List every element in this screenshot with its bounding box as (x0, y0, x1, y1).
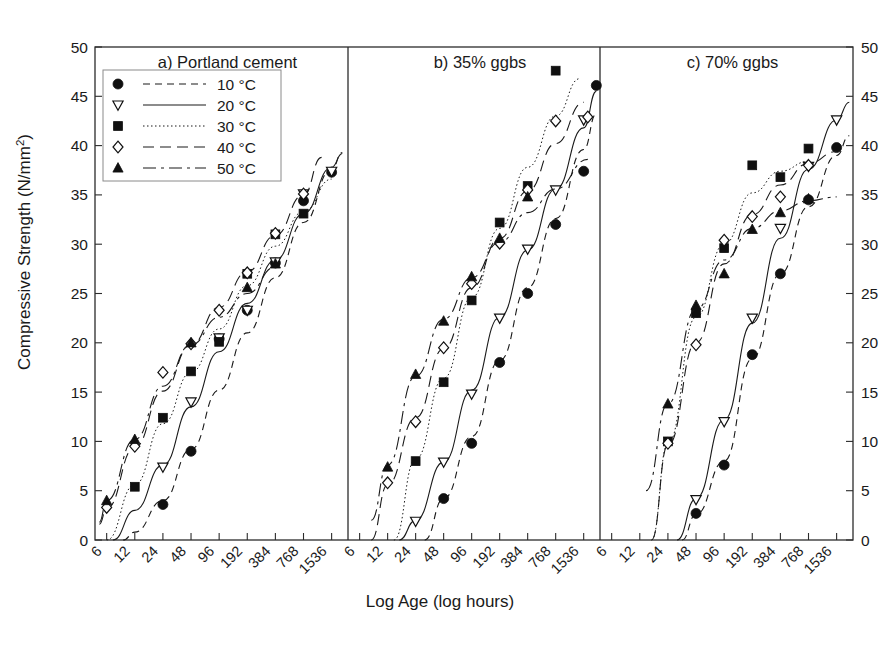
y-tick-label-right: 25 (861, 285, 878, 302)
x-tick-label: 6 (88, 543, 105, 560)
y-tick-label-left: 10 (71, 433, 89, 450)
y-tick-label-right: 0 (861, 532, 870, 549)
data-point (411, 416, 421, 428)
fit-line (652, 152, 837, 541)
x-tick-label: 6 (593, 543, 610, 560)
y-axis-title-tail: ) (15, 134, 34, 140)
data-point (158, 500, 168, 510)
data-point (775, 269, 785, 279)
legend-label: 30 °C (217, 118, 256, 135)
data-point (719, 268, 729, 278)
data-point (439, 458, 449, 467)
fit-line (99, 157, 321, 524)
series-30-c (394, 66, 580, 540)
x-tick-label: 48 (671, 543, 694, 566)
legend: 10 °C20 °C30 °C40 °C50 °C (103, 70, 281, 181)
y-tick-label-right: 30 (861, 236, 879, 253)
data-point (467, 438, 477, 448)
fit-line (107, 179, 332, 540)
data-point (102, 495, 112, 505)
fit-line (371, 102, 584, 540)
panel-title-a: a) Portland cement (158, 53, 298, 71)
series-20-c (399, 91, 596, 540)
legend-label: 20 °C (217, 97, 256, 114)
data-point (439, 342, 449, 354)
series-30-c (652, 144, 813, 540)
panel-b: 6122448961923847681536b) 35% ggbs (341, 53, 602, 577)
data-point (832, 143, 842, 153)
y-axis-title: Compressive Strength (N/mm2) (14, 134, 34, 370)
fit-line (371, 159, 588, 520)
plot-layers: 0055101015152020252530303535404045455050… (71, 39, 879, 577)
data-point (551, 219, 561, 229)
series-40-c (99, 157, 321, 524)
figure-root: Compressive Strength (N/mm2) 00551010151… (0, 0, 879, 645)
data-point (467, 296, 476, 305)
y-tick-label-left: 5 (79, 482, 88, 499)
y-tick-label-right: 45 (861, 88, 878, 105)
panel-title-b: b) 35% ggbs (434, 53, 527, 71)
series-10-c (682, 136, 849, 540)
x-tick-label: 24 (643, 543, 666, 566)
x-tick-label: 48 (166, 543, 189, 566)
x-tick-label: 12 (363, 543, 386, 566)
series-10-c (425, 80, 602, 540)
series-30-c (107, 179, 332, 540)
data-point (719, 460, 729, 470)
y-tick-label-left: 25 (71, 285, 88, 302)
data-point (692, 309, 701, 318)
data-point (186, 446, 196, 456)
y-tick-label-left: 30 (71, 236, 89, 253)
x-tick-label: 12 (615, 543, 638, 566)
series-50-c (99, 259, 280, 523)
data-point (691, 300, 701, 310)
data-point (411, 369, 421, 379)
data-point (158, 367, 168, 379)
x-tick-label: 384 (497, 543, 525, 571)
x-tick-label: 1536 (548, 543, 582, 577)
series-50-c (646, 193, 837, 490)
data-point (776, 173, 785, 182)
data-point (775, 207, 785, 217)
svg-text:Compressive Strength (N/mm2): Compressive Strength (N/mm2) (14, 134, 34, 370)
x-tick-label: 24 (391, 543, 414, 566)
data-point (242, 282, 252, 292)
data-point (691, 508, 701, 518)
x-tick-label: 96 (195, 543, 218, 566)
y-tick-label-left: 50 (71, 39, 89, 56)
x-tick-label: 384 (750, 543, 778, 571)
data-point (775, 191, 785, 203)
series-50-c (371, 159, 588, 520)
y-tick-label-right: 15 (861, 384, 878, 401)
data-point (411, 457, 420, 466)
y-tick-label-right: 10 (861, 433, 879, 450)
y-tick-label-right: 50 (861, 39, 879, 56)
data-point (747, 350, 757, 360)
panel-c: 6122448961923847681536c) 70% ggbs (593, 53, 850, 577)
data-point (775, 224, 785, 233)
x-tick-label: 96 (700, 543, 723, 566)
series-40-c (371, 102, 593, 540)
data-point (663, 399, 673, 409)
data-point (523, 191, 533, 201)
y-tick-label-left: 15 (71, 384, 88, 401)
y-tick-label-left: 35 (71, 186, 88, 203)
data-point (158, 463, 168, 472)
y-tick-label-right: 20 (861, 334, 879, 351)
data-point (383, 477, 393, 489)
y-axis-title-text: Compressive Strength (N/mm (15, 146, 34, 370)
x-tick-label: 192 (217, 543, 245, 571)
data-point (579, 166, 589, 176)
data-point (439, 378, 448, 387)
fit-line (682, 136, 849, 540)
fit-line (394, 79, 580, 540)
data-point (748, 161, 757, 170)
data-point (523, 289, 533, 299)
legend-marker (114, 122, 123, 131)
series-20-c (677, 102, 849, 540)
legend-label: 40 °C (217, 139, 256, 156)
legend-label: 10 °C (217, 76, 256, 93)
x-tick-label: 48 (419, 543, 442, 566)
x-tick-label: 96 (447, 543, 470, 566)
x-tick-label: 384 (245, 543, 273, 571)
